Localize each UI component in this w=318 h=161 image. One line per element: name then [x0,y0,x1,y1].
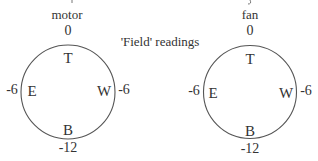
motor-position-bottom: B [63,123,73,137]
motor-reading-west: -6 [118,83,130,97]
fan-position-top: T [245,52,254,66]
motor-position-east: E [27,84,36,98]
motor-reading-top: 0 [65,24,72,38]
fan-dial-title: fan [242,8,259,22]
motor-position-west: W [97,84,111,98]
fan-reading-bottom: -12 [241,142,260,156]
fan-position-west: W [279,86,293,100]
clipped-text-fragment [248,0,251,4]
fan-reading-top: 0 [247,24,254,38]
motor-dial-title: motor [51,8,82,22]
motor-reading-bottom: -12 [59,141,78,155]
fan-position-bottom: B [245,124,255,138]
fan-reading-west: -6 [300,84,312,98]
fan-reading-east: -6 [188,84,200,98]
dial-circles [0,0,318,161]
motor-position-top: T [63,51,72,65]
diagram-title: 'Field' readings [121,35,200,49]
field-readings-diagram: motor 0 T -6 E W -6 B -12 'Field' readin… [0,0,318,161]
motor-reading-east: -6 [6,83,18,97]
fan-position-east: E [208,86,217,100]
